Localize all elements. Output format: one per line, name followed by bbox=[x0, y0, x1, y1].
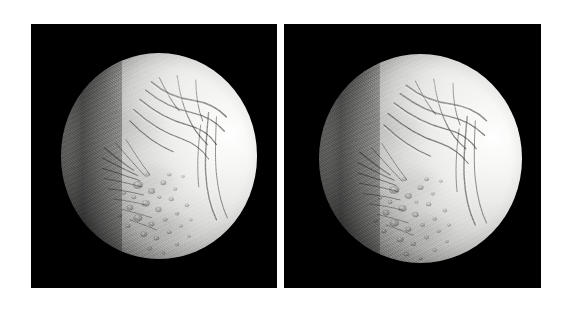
left-moon-container bbox=[31, 24, 277, 288]
polar-highlight-right bbox=[319, 54, 522, 263]
surface-terrain-right bbox=[319, 54, 522, 263]
surface-mottling-left bbox=[61, 53, 258, 259]
left-image-panel bbox=[31, 24, 277, 288]
surface-mottling-right bbox=[319, 54, 522, 263]
limb-darkening-right bbox=[319, 54, 522, 263]
limb-darkening-left bbox=[61, 53, 258, 259]
image-grain-right bbox=[319, 54, 522, 263]
polar-highlight-left bbox=[61, 53, 258, 259]
right-image-panel bbox=[284, 24, 541, 288]
figure-root bbox=[0, 0, 566, 309]
icy-moon-disc-right bbox=[319, 54, 522, 263]
image-grain-left bbox=[61, 53, 258, 259]
right-moon-container bbox=[284, 24, 541, 288]
icy-moon-disc-left bbox=[61, 53, 258, 259]
surface-terrain-left bbox=[61, 53, 258, 259]
